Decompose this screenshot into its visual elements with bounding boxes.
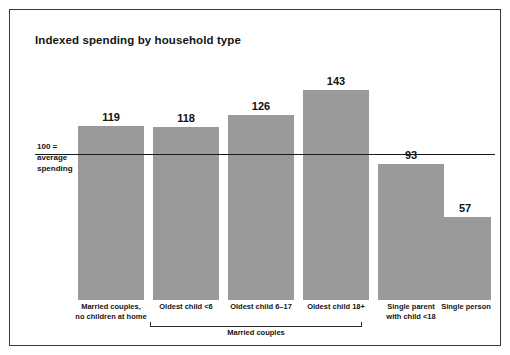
bar-value: 119 [78,111,144,123]
bar-rect[interactable] [303,90,369,300]
bar-column-oldest-child-18plus: 143 [303,65,369,300]
bar-value: 93 [378,149,444,161]
bar-rect[interactable] [228,115,294,300]
category-label-line1: Oldest child <6 [143,302,229,312]
bar-value: 57 [439,202,491,214]
bar-rect[interactable] [153,127,219,300]
bar-rect[interactable] [78,126,144,300]
bar-rect[interactable] [439,217,491,300]
group-bracket-label: Married couples [151,328,361,337]
bar-value: 118 [153,112,219,124]
category-label-line2: with child <18 [368,312,454,322]
plot-area: 119 118 126 143 [35,65,495,300]
bar-column-married-no-children: 119 [78,65,144,300]
bar-value: 143 [303,75,369,87]
category-label-line1: Married couples, [68,302,154,312]
bar-column-oldest-child-6-17: 126 [228,65,294,300]
category-label-oldest-child-under6: Oldest child <6 [143,302,229,312]
chart-frame: Indexed spending by household type 100 =… [9,9,501,346]
chart-page: Indexed spending by household type 100 =… [0,0,510,355]
bar-column-single-parent: 93 [378,65,444,300]
category-label-line2: no children at home [68,312,154,322]
group-bracket-married-couples: Married couples [150,322,362,327]
category-label-married-no-children: Married couples, no children at home [68,302,154,322]
bar-column-single-person: 57 [439,65,491,300]
bar-value: 126 [228,100,294,112]
average-reference-line [35,154,495,155]
category-label-oldest-child-6-17: Oldest child 6–17 [218,302,304,312]
category-label-line1: Oldest child 18+ [293,302,379,312]
category-label-line1: Oldest child 6–17 [218,302,304,312]
bar-series: 119 118 126 143 [35,65,495,300]
category-label-single-person: Single person [433,302,499,312]
category-axis-labels: Married couples, no children at home Old… [35,302,495,342]
category-label-line1: Single person [433,302,499,312]
bar-column-oldest-child-under6: 118 [153,65,219,300]
category-label-oldest-child-18plus: Oldest child 18+ [293,302,379,312]
chart-title: Indexed spending by household type [35,34,241,46]
bar-rect[interactable] [378,164,444,300]
